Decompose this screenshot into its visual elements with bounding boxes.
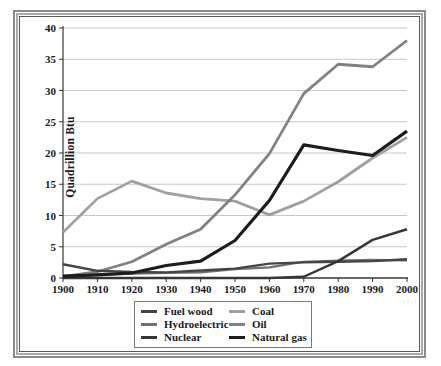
svg-text:1920: 1920 (121, 283, 144, 295)
svg-text:20: 20 (45, 147, 57, 159)
svg-text:1940: 1940 (190, 283, 213, 295)
svg-text:35: 35 (45, 53, 57, 65)
legend-label-coal: Coal (252, 306, 274, 317)
svg-text:1990: 1990 (362, 283, 385, 295)
svg-text:10: 10 (45, 210, 57, 222)
svg-text:5: 5 (51, 241, 57, 253)
legend-label-natural-gas: Natural gas (252, 332, 307, 343)
svg-text:1960: 1960 (258, 283, 281, 295)
legend-label-oil: Oil (252, 319, 267, 330)
svg-text:2000: 2000 (396, 283, 419, 295)
legend-label-fuel-wood: Fuel wood (164, 306, 213, 317)
svg-text:1900: 1900 (52, 283, 75, 295)
svg-text:1970: 1970 (293, 283, 316, 295)
legend-item-coal: Coal (229, 305, 319, 318)
svg-text:15: 15 (45, 178, 57, 190)
oil-line-swatch (229, 323, 245, 326)
legend-item-nuclear: Nuclear (141, 331, 229, 344)
energy-consumption-chart-figure: 0510152025303540190019101920193019401950… (0, 0, 441, 366)
svg-text:1950: 1950 (224, 283, 247, 295)
svg-text:40: 40 (45, 22, 57, 34)
svg-text:30: 30 (45, 85, 57, 97)
legend-item-fuel-wood: Fuel wood (141, 305, 229, 318)
legend-item-oil: Oil (229, 318, 319, 331)
fuel-wood-line-swatch (141, 310, 157, 313)
svg-text:25: 25 (45, 116, 57, 128)
nuclear-line-swatch (141, 336, 157, 339)
legend-label-hydroelectric: Hydroelectric (164, 319, 229, 330)
legend-item-hydroelectric: Hydroelectric (141, 318, 229, 331)
svg-text:1910: 1910 (86, 283, 109, 295)
coal-line-swatch (229, 310, 245, 313)
natural-gas-line-swatch (229, 336, 245, 339)
legend-label-nuclear: Nuclear (164, 332, 201, 343)
svg-text:1980: 1980 (327, 283, 350, 295)
y-axis-title: Quadrillion Btu (64, 97, 78, 217)
chart-legend: Fuel wood Hydroelectric Nuclear Coal Oil… (134, 301, 312, 348)
hydroelectric-line-swatch (141, 323, 157, 326)
legend-item-natural-gas: Natural gas (229, 331, 319, 344)
svg-text:1930: 1930 (155, 283, 178, 295)
